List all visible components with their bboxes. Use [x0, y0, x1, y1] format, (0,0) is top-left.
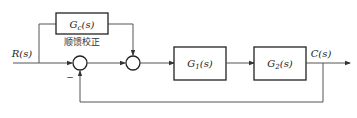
block-diagram: Gc(s) 顺馈校正 − G1(s) G2(s) C(s) R(s): [0, 0, 357, 118]
summing-junction-2: [126, 56, 140, 70]
feedforward-output-line: [108, 24, 133, 55]
feedforward-branch-line: [39, 24, 56, 63]
feedforward-caption: 顺馈校正: [64, 36, 100, 47]
summing-junction-1: [73, 56, 87, 70]
input-label: R(s): [11, 48, 33, 59]
feedback-sign: −: [66, 72, 74, 82]
output-label: C(s): [311, 48, 332, 59]
